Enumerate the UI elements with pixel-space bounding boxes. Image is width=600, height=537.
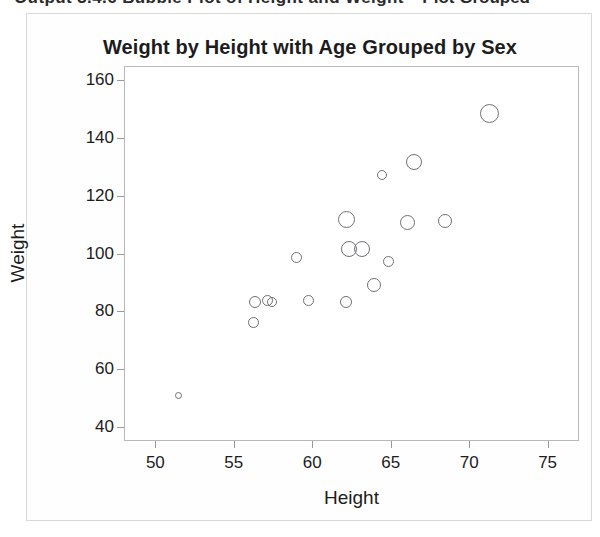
data-point — [248, 317, 259, 328]
cutoff-caption-right: Plot Grouped — [422, 0, 530, 8]
data-point — [400, 215, 415, 230]
data-point — [406, 154, 422, 170]
scan-top-cutoff-text: Output 3.4.6 Bubble Plot of Height and W… — [0, 0, 600, 14]
y-axis-title: Weight — [7, 224, 29, 283]
data-point — [438, 214, 452, 228]
data-point — [175, 392, 182, 399]
data-point — [338, 211, 355, 228]
data-point — [377, 170, 387, 180]
data-point — [480, 104, 499, 123]
data-point — [367, 278, 381, 292]
data-point — [340, 296, 352, 308]
x-axis-title: Height — [124, 487, 579, 509]
data-point — [267, 297, 277, 307]
data-point — [291, 252, 302, 263]
chart-title: Weight by Height with Age Grouped by Sex — [27, 36, 593, 59]
data-point — [383, 256, 394, 267]
data-point — [249, 296, 261, 308]
data-point — [354, 241, 370, 257]
data-point — [303, 295, 314, 306]
plot-area — [124, 66, 579, 441]
